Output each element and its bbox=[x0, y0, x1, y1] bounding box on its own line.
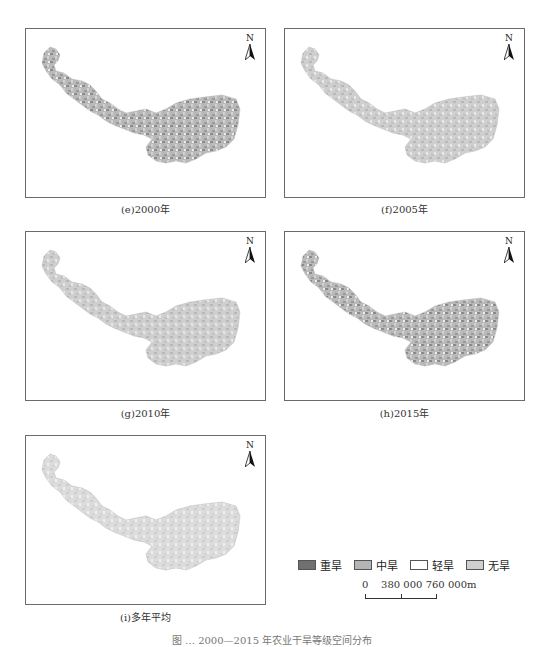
north-label: N bbox=[243, 237, 257, 246]
figure-caption: 图 … 2000—2015 年农业干旱等级空间分布 bbox=[0, 632, 544, 647]
legend-label: 中旱 bbox=[376, 557, 398, 573]
legend-item-light: 轻旱 bbox=[410, 557, 454, 573]
legend-label: 无旱 bbox=[488, 557, 510, 573]
drought-map bbox=[285, 29, 524, 197]
map-panel-i: N bbox=[25, 435, 266, 605]
north-label: N bbox=[502, 34, 516, 43]
legend-item-none: 无旱 bbox=[466, 557, 510, 573]
scale-bar: 0 380 000 760 000m bbox=[362, 579, 476, 590]
scale-label-2: 760 000m bbox=[426, 579, 477, 590]
scale-label-1: 380 000 bbox=[381, 579, 422, 590]
drought-map bbox=[26, 29, 265, 197]
panel-caption-g: (g)2010年 bbox=[25, 405, 266, 420]
north-arrow-icon: N bbox=[243, 34, 257, 60]
drought-map bbox=[285, 232, 524, 400]
north-arrow-icon: N bbox=[502, 237, 516, 263]
legend-swatch-severe bbox=[298, 560, 316, 570]
map-panel-g: N bbox=[25, 231, 266, 401]
legend-swatch-none bbox=[466, 560, 484, 570]
drought-map bbox=[26, 436, 265, 604]
north-label: N bbox=[502, 237, 516, 246]
map-panel-h: N bbox=[284, 231, 525, 401]
scale-bar-line bbox=[365, 594, 437, 599]
legend-swatch-moderate bbox=[354, 560, 372, 570]
panel-caption-f: (f)2005年 bbox=[284, 201, 525, 216]
panel-caption-h: (h)2015年 bbox=[284, 405, 525, 420]
panel-caption-i: (i)多年平均 bbox=[25, 609, 266, 624]
legend-item-moderate: 中旱 bbox=[354, 557, 398, 573]
map-panel-e: N bbox=[25, 28, 266, 198]
drought-map bbox=[26, 232, 265, 400]
panel-caption-e: (e)2000年 bbox=[25, 201, 266, 216]
legend-label: 轻旱 bbox=[432, 557, 454, 573]
legend-label: 重旱 bbox=[320, 557, 342, 573]
legend-swatch-light bbox=[410, 560, 428, 570]
map-legend: 重旱 中旱 轻旱 无旱 bbox=[298, 557, 522, 573]
north-arrow-icon: N bbox=[502, 34, 516, 60]
north-label: N bbox=[243, 34, 257, 43]
north-label: N bbox=[243, 441, 257, 450]
north-arrow-icon: N bbox=[243, 441, 257, 467]
legend-item-severe: 重旱 bbox=[298, 557, 342, 573]
north-arrow-icon: N bbox=[243, 237, 257, 263]
map-panel-f: N bbox=[284, 28, 525, 198]
